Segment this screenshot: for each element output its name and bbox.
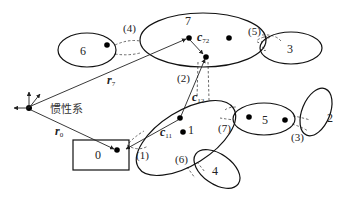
vector-c11-label: c11 [160,125,173,140]
joint-label-7: (7) [218,122,231,135]
body-6: 6 [58,33,116,67]
joint-labels: (4) (5) (2) (1) (7) (3) (6) [123,22,304,166]
body-7-center-point [186,35,192,41]
body-5: 5 [233,103,295,135]
joint-point [203,54,209,60]
body-0-label: 0 [95,148,101,162]
vector-c12-label: c12 [192,90,205,105]
vector-r7-label: r7 [107,73,116,88]
joint-point [282,117,288,123]
body-2-label: 2 [327,111,333,125]
joint-label-2: (2) [177,72,190,85]
vector-c72-label: c72 [197,30,210,45]
joint-point [246,114,252,120]
body-7-label: 7 [185,14,191,28]
body-3-label: 3 [287,42,293,56]
body-0: 0 [73,140,129,170]
joint-label-6: (6) [175,153,188,166]
body-3: 3 [260,32,322,64]
body-7: 7 c72 [140,13,266,67]
joint-label-5: (5) [248,25,261,38]
joint-label-4: (4) [123,22,136,35]
body-1-label: 1 [188,123,194,137]
body-4-label: 4 [212,164,218,178]
inertial-frame-label: 惯性系 [50,102,83,116]
axis-y-arrow [29,94,40,108]
joint-point [177,115,183,121]
body-4: 4 [187,142,247,196]
joint-label-3: (3) [291,131,304,144]
joint-label-1: (1) [136,149,149,162]
body-5-label: 5 [262,113,268,127]
vector-r0-label: r0 [55,124,64,139]
joint-point [226,35,232,41]
body-6-label: 6 [80,44,86,58]
multibody-diagram: 6 7 c72 3 1 c12 c11 [0,0,356,199]
joint-point [114,147,120,153]
body-1-center-point [180,129,186,135]
vector-c12-arrow [181,59,205,116]
joint-point [104,42,110,48]
